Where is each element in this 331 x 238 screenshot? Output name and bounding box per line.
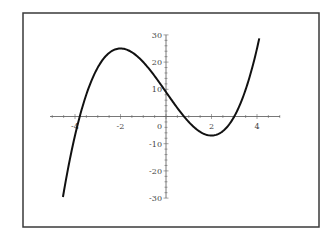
chart: -4-224-30-20-100102030 [0, 0, 331, 238]
y-tick-label: 10 [152, 85, 162, 94]
plot-frame [23, 13, 319, 227]
y-tick-label: 0 [157, 122, 162, 131]
x-tick-label: 4 [254, 122, 259, 131]
x-tick-label: -2 [117, 122, 125, 131]
x-tick-label: 2 [209, 122, 214, 131]
y-tick-label: -10 [149, 140, 162, 149]
y-tick-label: 20 [152, 58, 162, 67]
y-tick-label: 30 [152, 31, 162, 40]
y-tick-label: -20 [149, 167, 162, 176]
y-tick-label: -30 [149, 194, 162, 203]
